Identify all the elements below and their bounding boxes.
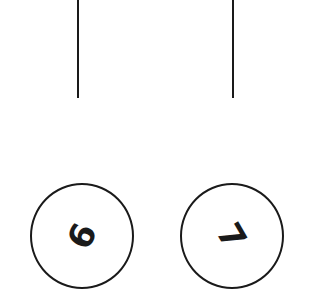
edge-line-right bbox=[232, 0, 234, 98]
node-label-6: 6 bbox=[62, 218, 103, 254]
edge-line-left bbox=[77, 0, 79, 98]
node-circle-6: 6 bbox=[30, 183, 134, 289]
node-label-7: 7 bbox=[211, 217, 252, 255]
node-circle-7: 7 bbox=[180, 183, 284, 289]
